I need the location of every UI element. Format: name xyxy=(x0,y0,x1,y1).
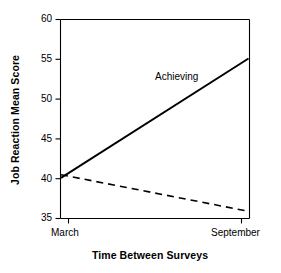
x-axis-title: Time Between Surveys xyxy=(30,249,270,261)
series-nonachieving-line xyxy=(61,175,249,212)
x-tick-label-march: March xyxy=(51,228,79,238)
y-tick-label-45: 45 xyxy=(28,134,52,144)
chart-figure: 60 55 50 45 40 35 March September Achiev… xyxy=(0,0,281,273)
x-tick-label-september: September xyxy=(211,228,260,238)
y-tick-label-50: 50 xyxy=(28,94,52,104)
y-tick-label-40: 40 xyxy=(28,174,52,184)
y-tick-label-55: 55 xyxy=(28,54,52,64)
series-label-achieving: Achieving xyxy=(155,71,198,82)
y-tick-label-60: 60 xyxy=(28,14,52,24)
y-axis-ticks xyxy=(56,20,61,219)
y-tick-label-35: 35 xyxy=(28,213,52,223)
x-axis-ticks xyxy=(69,219,242,224)
